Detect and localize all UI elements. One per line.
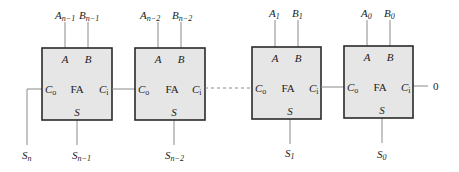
a-signal-label: An−2 [139, 9, 160, 23]
s-signal-label: Sn−1 [72, 149, 91, 163]
input-a-label: A [363, 51, 371, 63]
sum-label: S [171, 106, 177, 118]
wire-carry-out [27, 89, 42, 145]
sum-label: S [379, 104, 385, 116]
a-signal-label: A1 [268, 7, 280, 21]
b-signal-label: B1 [292, 7, 303, 21]
b-signal-label: Bn−1 [79, 9, 99, 23]
fa-label: FA [70, 83, 83, 95]
fa-label: FA [281, 82, 294, 94]
full-adder-n-2: A B FA Co Ci S An−2 Bn−2 Sn−2 [135, 9, 205, 163]
s-signal-label: S0 [377, 148, 387, 162]
input-b-label: B [295, 52, 302, 64]
full-adder-1: A B FA Co Ci S A1 B1 S1 [252, 7, 321, 161]
input-b-label: B [178, 53, 185, 65]
fa-label: FA [373, 81, 386, 93]
input-b-label: B [85, 53, 92, 65]
sum-label: S [287, 105, 293, 117]
input-a-label: A [61, 53, 69, 65]
b-signal-label: B0 [384, 7, 395, 21]
input-a-label: A [154, 53, 162, 65]
a-signal-label: An−1 [54, 9, 75, 23]
s-signal-label: Sn−2 [165, 149, 184, 163]
fa-label: FA [165, 83, 178, 95]
s-signal-label: S1 [285, 147, 295, 161]
input-b-label: B [387, 51, 394, 63]
b-signal-label: Bn−2 [172, 9, 192, 23]
sum-label: S [74, 106, 80, 118]
carry-in-zero-label: 0 [433, 80, 439, 92]
full-adder-0: A B FA Co Ci S A0 B0 S0 0 [344, 7, 439, 162]
a-signal-label: A0 [360, 7, 372, 21]
input-a-label: A [271, 52, 279, 64]
final-carry-label: Sn [22, 149, 32, 163]
full-adder-n-1: A B FA Co Ci S An−1 Bn−1 Sn−1 Sn [22, 9, 112, 163]
ripple-carry-adder-diagram: A B FA Co Ci S An−1 Bn−1 Sn−1 Sn A B FA … [0, 0, 459, 172]
